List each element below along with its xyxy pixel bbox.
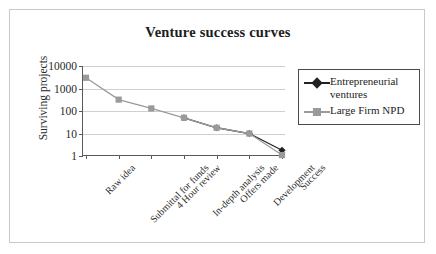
y-tick-label: 1 [71, 150, 77, 162]
data-point-marker [279, 152, 285, 158]
plot-area: 100001000100101 Raw ideaSubmittal for fu… [82, 66, 284, 156]
x-tick-label: Submittal for funds [147, 162, 210, 225]
data-point-marker [214, 125, 220, 131]
x-tick-label: Raw idea [103, 162, 137, 196]
data-point-marker [148, 105, 154, 111]
y-tick-label: 10 [66, 128, 78, 140]
legend-label: Entrepreneurial ventures [330, 75, 415, 101]
chart-title: Venture success curves [10, 24, 426, 41]
legend-key [304, 76, 330, 90]
y-tick-label: 1000 [54, 83, 77, 95]
y-tick-label: 10000 [48, 60, 77, 72]
y-tick-label: 100 [60, 105, 77, 117]
data-point-marker [246, 130, 252, 136]
y-axis-title: Surviving projects [37, 43, 49, 153]
data-series-layer [83, 66, 285, 156]
data-point-marker [116, 97, 122, 103]
y-tick [79, 156, 83, 157]
legend-label: Large Firm NPD [330, 104, 404, 117]
legend-item[interactable]: Entrepreneurial ventures [304, 75, 415, 101]
legend-item[interactable]: Large Firm NPD [304, 104, 415, 119]
square-marker-icon [313, 108, 321, 116]
legend-key [304, 105, 330, 119]
data-point-marker [181, 115, 187, 121]
data-point-marker [83, 75, 89, 81]
diamond-marker-icon [311, 77, 322, 88]
chart-legend: Entrepreneurial venturesLarge Firm NPD [298, 69, 420, 125]
chart-container: Venture success curves Surviving project… [9, 9, 425, 243]
